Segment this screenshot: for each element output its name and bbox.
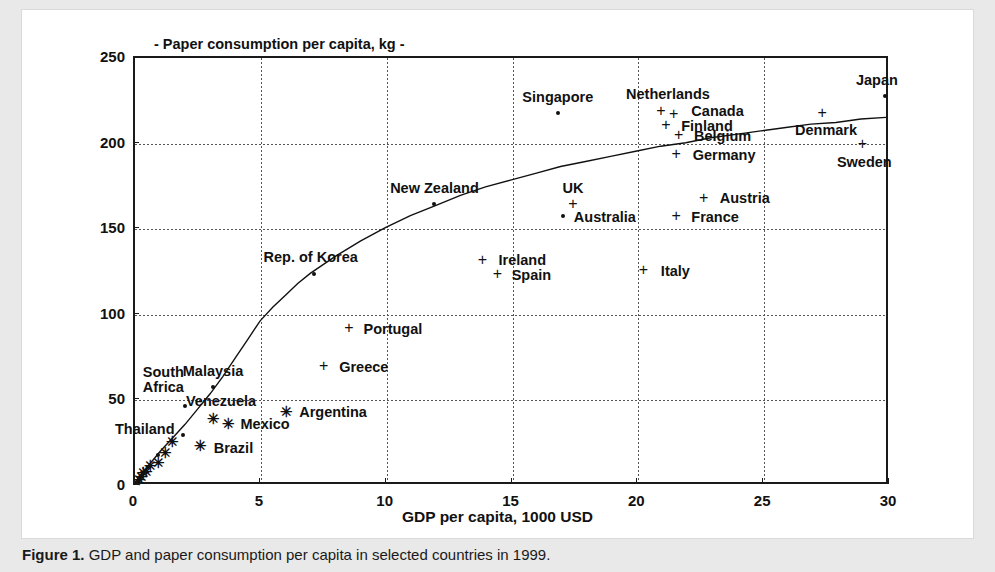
y-tick: [133, 227, 139, 228]
x-tick: [511, 478, 512, 484]
plot-inner: +++++++++++++++✳✳✳✳✳✳✳✳✳✳✳✳ JapanDenmark…: [135, 58, 886, 482]
data-point-marker: +: [671, 208, 680, 224]
data-point-label: New Zealand: [390, 180, 479, 196]
data-point-label: Mexico: [241, 416, 290, 432]
data-point-label: Venezuela: [186, 393, 256, 409]
x-tick-label: 10: [376, 492, 393, 509]
data-point-label: Rep. of Korea: [264, 249, 358, 265]
x-axis-title: GDP per capita, 1000 USD: [22, 508, 973, 526]
y-tick-label: 250: [75, 48, 125, 65]
x-tick: [762, 478, 763, 484]
data-point-marker: +: [817, 105, 826, 121]
data-point-label: Austria: [720, 190, 770, 206]
figure-caption-label: Figure 1.: [22, 546, 85, 563]
data-point-marker: ✳: [222, 415, 235, 430]
gridline-vertical: [764, 58, 765, 482]
data-point-marker: ✳: [159, 444, 172, 459]
y-tick: [133, 484, 139, 485]
data-point-marker: ✳: [194, 437, 207, 452]
data-point-label: Netherlands: [626, 86, 710, 102]
data-point-marker: [312, 272, 316, 276]
data-point-marker: ✳: [207, 410, 220, 425]
data-point-label: UK: [562, 180, 583, 196]
data-point-marker: +: [478, 252, 487, 268]
data-point-marker: [432, 202, 436, 206]
gridline-horizontal: [135, 229, 886, 230]
x-tick-label: 20: [628, 492, 645, 509]
x-tick-label: 5: [255, 492, 263, 509]
data-point-label: Spain: [512, 267, 551, 283]
data-point-marker: +: [671, 146, 680, 162]
y-tick-label: 100: [75, 304, 125, 321]
x-tick-label: 15: [502, 492, 519, 509]
data-point-marker: +: [699, 190, 708, 206]
y-tick-label: 200: [75, 133, 125, 150]
data-point-label: Portugal: [364, 321, 423, 337]
y-tick-label: 150: [75, 219, 125, 236]
y-tick-label: 50: [75, 390, 125, 407]
data-point-label: France: [691, 209, 739, 225]
data-point-marker: +: [858, 136, 867, 152]
data-point-marker: +: [493, 266, 502, 282]
x-tick: [259, 478, 260, 484]
data-point-label: Belgium: [694, 128, 751, 144]
x-tick: [888, 478, 889, 484]
data-point-marker: [561, 214, 565, 218]
y-tick: [133, 313, 139, 314]
data-point-label: Singapore: [522, 89, 593, 105]
figure-panel: - Paper consumption per capita, kg - +++…: [22, 10, 973, 538]
gridline-horizontal: [135, 144, 886, 145]
data-point-label: Denmark: [795, 122, 857, 138]
y-tick: [133, 398, 139, 399]
data-point-label: Brazil: [214, 440, 254, 456]
x-tick-label: 30: [880, 492, 897, 509]
x-tick-label: 25: [754, 492, 771, 509]
x-tick: [636, 478, 637, 484]
y-tick: [133, 56, 139, 57]
data-point-label: Australia: [574, 209, 636, 225]
data-point-label: Italy: [661, 263, 690, 279]
y-tick-label: 0: [75, 476, 125, 493]
data-point-label: Argentina: [299, 404, 367, 420]
data-point-marker: [883, 94, 887, 98]
figure-caption-text: GDP and paper consumption per capita in …: [89, 546, 551, 563]
data-point-marker: +: [344, 320, 353, 336]
data-point-label: Greece: [339, 359, 388, 375]
data-point-label: Sweden: [837, 154, 892, 170]
scanned-page-background: - Paper consumption per capita, kg - +++…: [0, 0, 995, 572]
chart-title: - Paper consumption per capita, kg -: [154, 36, 405, 52]
gridline-horizontal: [135, 315, 886, 316]
data-point-label: SouthAfrica: [143, 364, 184, 394]
y-tick: [133, 142, 139, 143]
data-point-label: Germany: [693, 147, 756, 163]
data-point-label: Ireland: [499, 252, 547, 268]
data-point-marker: [556, 111, 560, 115]
data-point-label: Malaysia: [183, 363, 243, 379]
data-point-marker: +: [661, 117, 670, 133]
data-point-marker: [181, 433, 185, 437]
data-point-marker: [211, 385, 215, 389]
data-point-marker: ✳: [144, 458, 157, 473]
data-point-marker: +: [639, 262, 648, 278]
plot-area: +++++++++++++++✳✳✳✳✳✳✳✳✳✳✳✳ JapanDenmark…: [133, 56, 888, 484]
data-point-label: Japan: [856, 72, 898, 88]
gridline-vertical: [387, 58, 388, 482]
x-tick: [385, 478, 386, 484]
x-tick-label: 0: [129, 492, 137, 509]
scatter-chart: - Paper consumption per capita, kg - +++…: [22, 10, 973, 538]
data-point-label: Thailand: [115, 421, 175, 437]
figure-caption: Figure 1. GDP and paper consumption per …: [22, 546, 973, 563]
data-point-marker: +: [319, 358, 328, 374]
